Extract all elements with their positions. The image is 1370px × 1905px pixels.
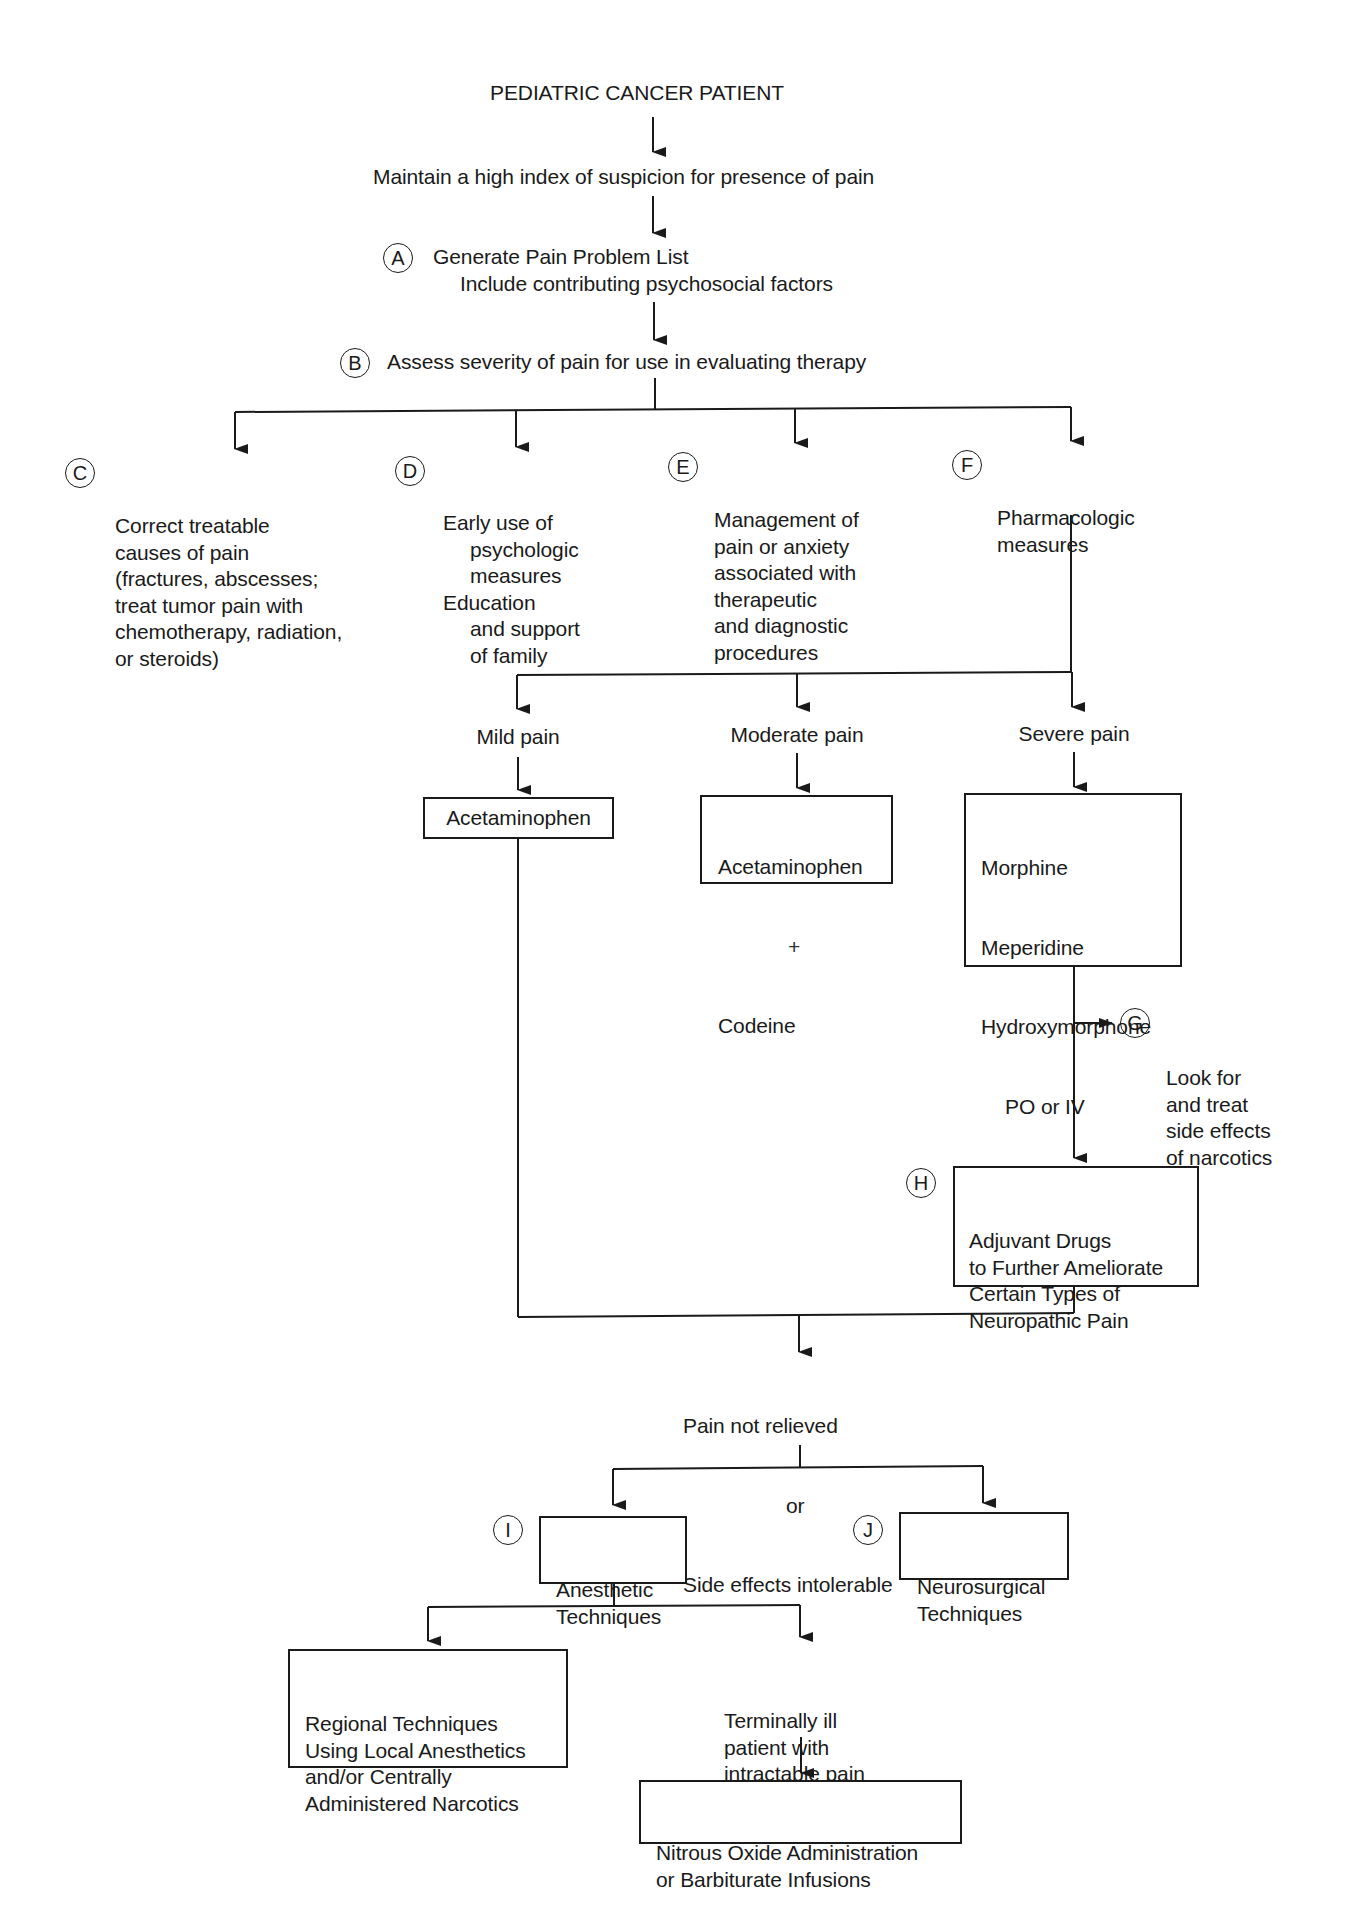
step-e-badge: E bbox=[668, 452, 698, 482]
mild-drug-text: Acetaminophen bbox=[425, 805, 612, 832]
pain-not-relieved-text: Pain not relieved or Side effects intole… bbox=[683, 1360, 893, 1625]
step-f-badge: F bbox=[952, 450, 982, 480]
pain-management-flowchart: PEDIATRIC CANCER PATIENT Maintain a high… bbox=[0, 0, 1370, 1905]
step-e-text: Management ofpain or anxietyassociated w… bbox=[714, 454, 859, 693]
moderate-pain-label: Moderate pain bbox=[697, 722, 897, 749]
step-b-text: Assess severity of pain for use in evalu… bbox=[387, 349, 866, 376]
step-f-text: Pharmacologicmeasures bbox=[997, 452, 1135, 585]
step-i-text: AnestheticTechniques bbox=[556, 1524, 661, 1683]
step-c-badge: C bbox=[65, 458, 95, 488]
step-d-text: Early use ofpsychologicmeasuresEducation… bbox=[443, 457, 580, 696]
step-h-text: Adjuvant Drugsto Further AmeliorateCerta… bbox=[969, 1175, 1163, 1387]
regional-techniques-box: Regional TechniquesUsing Local Anestheti… bbox=[288, 1649, 568, 1768]
step-c-text: Correct treatablecauses of pain(fracture… bbox=[115, 460, 342, 699]
step-a-badge: A bbox=[383, 243, 413, 273]
regional-techniques-text: Regional TechniquesUsing Local Anestheti… bbox=[305, 1658, 526, 1870]
severe-drug-box: Morphine Meperidine Hydroxymorphone PO o… bbox=[964, 793, 1182, 967]
step-a-subtitle: Include contributing psychosocial factor… bbox=[460, 271, 833, 298]
step-maintain-suspicion: Maintain a high index of suspicion for p… bbox=[373, 164, 874, 191]
step-h-box: Adjuvant Drugsto Further AmeliorateCerta… bbox=[953, 1166, 1199, 1287]
nitrous-barbiturate-text: Nitrous Oxide Administrationor Barbitura… bbox=[656, 1787, 918, 1905]
step-j-text: NeurosurgicalTechniques bbox=[917, 1521, 1045, 1680]
step-b-badge: B bbox=[340, 348, 370, 378]
severe-pain-label: Severe pain bbox=[974, 721, 1174, 748]
step-i-box: AnestheticTechniques bbox=[539, 1516, 687, 1584]
step-h-badge: H bbox=[906, 1168, 936, 1198]
mild-pain-label: Mild pain bbox=[418, 724, 618, 751]
nitrous-barbiturate-box: Nitrous Oxide Administrationor Barbitura… bbox=[639, 1780, 962, 1844]
step-j-box: NeurosurgicalTechniques bbox=[899, 1512, 1069, 1580]
step-i-badge: I bbox=[493, 1515, 523, 1545]
mild-drug-box: Acetaminophen bbox=[423, 797, 614, 839]
moderate-drug-text: Acetaminophen + Codeine bbox=[718, 801, 863, 1093]
step-a-title: Generate Pain Problem List bbox=[433, 244, 688, 271]
step-g-badge: G bbox=[1120, 1008, 1150, 1038]
step-d-badge: D bbox=[395, 456, 425, 486]
start-node-title: PEDIATRIC CANCER PATIENT bbox=[490, 80, 784, 107]
moderate-drug-box: Acetaminophen + Codeine bbox=[700, 795, 893, 884]
step-j-badge: J bbox=[853, 1515, 883, 1545]
